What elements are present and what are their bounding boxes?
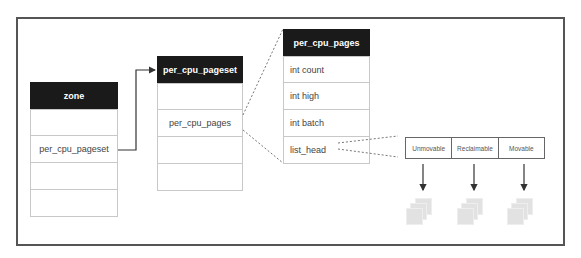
page-stack-reclaimable-icon [457, 198, 483, 224]
pageset-pointer-arrow [118, 70, 155, 150]
list-head-line-bottom [338, 149, 398, 157]
list-head-line-top [338, 136, 398, 143]
page-stack-unmovable-icon [406, 198, 432, 224]
page-stack-movable-icon [507, 198, 533, 224]
expand-line-top [243, 29, 283, 115]
expand-line-bottom [243, 130, 283, 163]
connector-lines [0, 0, 581, 258]
